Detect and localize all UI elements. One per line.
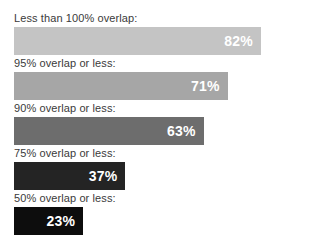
- bar-rows: Less than 100% overlap: 82% 95% overlap …: [0, 12, 328, 237]
- bar-category-label: 95% overlap or less:: [14, 57, 315, 72]
- bar-value-label: 82%: [224, 34, 253, 48]
- bar-row: 95% overlap or less: 71%: [0, 57, 328, 102]
- bar-category-label: 50% overlap or less:: [14, 192, 315, 207]
- bar-category-label: 75% overlap or less:: [14, 147, 315, 162]
- bar-fill: 37%: [14, 162, 125, 190]
- bar-value-label: 71%: [191, 79, 220, 93]
- bar-row: 90% overlap or less: 63%: [0, 102, 328, 147]
- bar-row: 75% overlap or less: 37%: [0, 147, 328, 192]
- bar-value-label: 63%: [167, 124, 196, 138]
- bar-track: 23%: [14, 207, 315, 235]
- bar-value-label: 37%: [89, 169, 118, 183]
- bar-fill: 23%: [14, 207, 83, 235]
- bar-category-label: Less than 100% overlap:: [14, 12, 315, 27]
- bar-row: Less than 100% overlap: 82%: [0, 12, 328, 57]
- bar-fill: 82%: [14, 27, 261, 55]
- bar-track: 37%: [14, 162, 315, 190]
- clipped-header-text: [195, 0, 315, 5]
- bar-fill: 63%: [14, 117, 204, 145]
- bar-track: 82%: [14, 27, 315, 55]
- bar-track: 71%: [14, 72, 315, 100]
- bar-row: 50% overlap or less: 23%: [0, 192, 328, 237]
- bar-fill: 71%: [14, 72, 228, 100]
- bar-value-label: 23%: [47, 214, 76, 228]
- bar-track: 63%: [14, 117, 315, 145]
- overlap-bar-chart: Less than 100% overlap: 82% 95% overlap …: [0, 0, 328, 242]
- bar-category-label: 90% overlap or less:: [14, 102, 315, 117]
